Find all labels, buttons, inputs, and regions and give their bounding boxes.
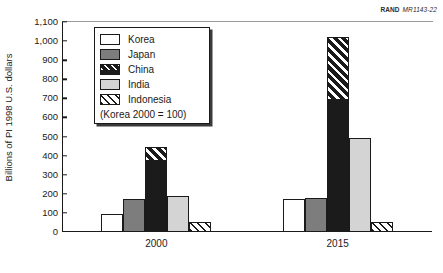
legend-item-india: India <box>100 77 204 92</box>
swatch-china-black-hatch-icon <box>100 64 120 75</box>
bar-china-2000 <box>145 147 167 232</box>
china-hatch-segment <box>146 148 166 160</box>
swatch-korea-white-icon <box>100 34 120 45</box>
legend-item-korea: Korea <box>100 32 204 47</box>
bar-japan-2000 <box>123 199 145 232</box>
bar-indonesia-2015 <box>371 222 393 233</box>
y-tick-label: 800 <box>18 75 58 85</box>
legend-item-label: Japan <box>128 50 155 60</box>
legend-item-label: Korea <box>128 35 155 45</box>
source-credit: RANDMR1143-22 <box>380 6 437 13</box>
legend-rows: KoreaJapanChinaIndiaIndonesia <box>100 32 204 107</box>
y-axis-title-text: Billions of PI 1998 U.S. dollars <box>4 54 15 182</box>
swatch-indonesia-diagonal-icon <box>100 94 120 105</box>
x-tick-label: 2015 <box>327 238 349 249</box>
swatch-japan-darkgray-icon <box>100 49 120 60</box>
bar-korea-2015 <box>283 199 305 232</box>
y-tick-label: 700 <box>18 94 58 104</box>
y-tick-label: 0 <box>18 227 58 237</box>
credit-org: RAND <box>380 6 399 13</box>
china-hatch-segment <box>328 38 348 98</box>
y-tick-label: 600 <box>18 113 58 123</box>
legend-item-label: China <box>128 65 154 75</box>
bar-indonesia-2000 <box>189 222 211 232</box>
credit-code: MR1143-22 <box>403 6 437 13</box>
legend-item-japan: Japan <box>100 47 204 62</box>
y-tick-label: 1,000 <box>18 36 58 46</box>
y-axis-title: Billions of PI 1998 U.S. dollars <box>2 0 16 235</box>
bar-india-2015 <box>349 138 371 233</box>
legend-note: (Korea 2000 = 100) <box>100 109 204 120</box>
china-solid-segment <box>146 160 166 231</box>
legend-item-indonesia: Indonesia <box>100 92 204 107</box>
y-tick-label: 300 <box>18 170 58 180</box>
swatch-india-lightgray-icon <box>100 79 120 90</box>
y-tick-label: 400 <box>18 151 58 161</box>
legend-item-label: Indonesia <box>128 95 171 105</box>
bar-india-2000 <box>167 196 189 232</box>
legend-item-label: India <box>128 80 150 90</box>
y-tick-label: 1,100 <box>18 17 58 27</box>
bar-japan-2015 <box>305 198 327 232</box>
bar-china-2015 <box>327 37 349 232</box>
x-tick-label: 2000 <box>145 238 167 249</box>
legend: KoreaJapanChinaIndiaIndonesia (Korea 200… <box>94 27 210 124</box>
y-axis-tick-labels: 01002003004005006007008009001,0001,100 <box>18 22 58 232</box>
china-solid-segment <box>328 99 348 231</box>
y-tick-label: 900 <box>18 55 58 65</box>
y-tick-label: 100 <box>18 208 58 218</box>
legend-item-china: China <box>100 62 204 77</box>
bar-chart: RANDMR1143-22 Billions of PI 1998 U.S. d… <box>0 0 443 273</box>
y-tick-label: 500 <box>18 132 58 142</box>
y-tick-label: 200 <box>18 189 58 199</box>
bar-korea-2000 <box>101 214 123 232</box>
